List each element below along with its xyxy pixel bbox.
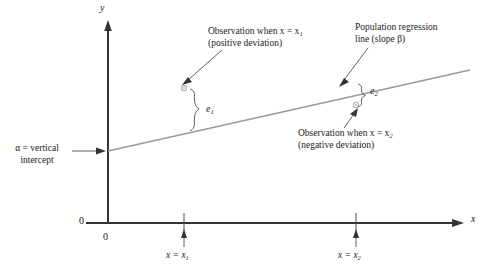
y-axis (104, 20, 112, 223)
observation-2-subscript: 2 (389, 132, 392, 139)
residual-1-brace (190, 89, 199, 131)
observation-1-annotation: Observation when x = x1 (positive deviat… (208, 26, 303, 49)
x-tick-2-subscript: 2 (358, 254, 361, 261)
x-axis (86, 219, 464, 227)
observation-1-line1: Observation when x = x1 (208, 26, 303, 36)
intercept-line1: α = vertical (15, 143, 59, 153)
x-tick-label-x2: x = x2 (338, 250, 361, 262)
observation-2-marker (353, 102, 358, 107)
regression-diagram: y x 0 0 Observation when x = x1 (positiv… (0, 0, 490, 271)
y-axis-label: y (100, 2, 104, 14)
tick2-pointer-arrow (353, 229, 359, 247)
residual-1-subscript: 1 (210, 108, 213, 115)
y-origin-zero-label: 0 (79, 215, 84, 227)
x-origin-zero-label: 0 (103, 231, 108, 243)
intercept-annotation: α = vertical intercept (4, 143, 70, 166)
observation-2-line1: Observation when x = x2 (298, 128, 393, 138)
observation-1-marker (181, 85, 186, 90)
residual-1-label: e1 (206, 103, 214, 116)
residual-2-label: e2 (370, 85, 378, 98)
observation-1-subscript: 1 (299, 30, 302, 37)
regression-line-line2: line (slope β) (355, 34, 438, 46)
observation-2-pointer-arrow (344, 108, 358, 128)
x-axis-label: x (471, 213, 475, 225)
observation-1-line2: (positive deviation) (208, 38, 303, 50)
intercept-line2: intercept (4, 155, 70, 167)
regression-line-pointer-arrow (339, 48, 368, 87)
regression-line-line1: Population regression (355, 22, 438, 32)
observation-2-line2: (negative deviation) (298, 140, 393, 152)
x-tick-1-subscript: 1 (186, 254, 189, 261)
observation-1-pointer-arrow (182, 50, 222, 85)
regression-line-annotation: Population regression line (slope β) (355, 22, 438, 45)
intercept-pointer-arrow (72, 148, 106, 155)
population-regression-line (108, 70, 470, 151)
residual-2-subscript: 2 (374, 90, 377, 97)
x-tick-label-x1: x = x1 (166, 250, 189, 262)
tick1-pointer-arrow (181, 229, 187, 247)
observation-2-annotation: Observation when x = x2 (negative deviat… (298, 128, 393, 151)
